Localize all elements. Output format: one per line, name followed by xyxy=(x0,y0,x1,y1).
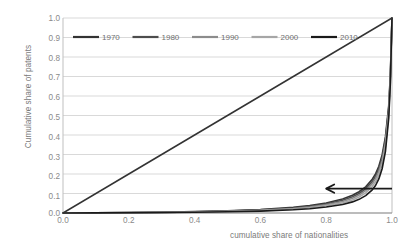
chart-legend: 19701980199020002010 xyxy=(73,33,358,42)
legend-label-2000: 2000 xyxy=(281,33,299,42)
legend-label-1990: 1990 xyxy=(221,33,239,42)
legend-label-1980: 1980 xyxy=(162,33,180,42)
legend-label-1970: 1970 xyxy=(102,33,120,42)
plot-area: 19701980199020002010 xyxy=(0,0,413,251)
legend-label-2010: 2010 xyxy=(340,33,358,42)
lorenz-curve-chart: Cumulative share of patents 1.0 0.9 0.8 … xyxy=(0,0,413,251)
